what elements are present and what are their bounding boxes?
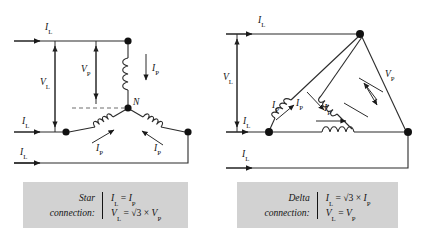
delta-vp-arrow-down: [364, 83, 377, 105]
delta-label-line-current-mid: IL: [243, 117, 250, 127]
delta-legend-eq1: IL = √3 × IP: [326, 190, 371, 205]
delta-connection-panel: IL VL IL IL IP IP IP VP Delta connec: [212, 0, 424, 247]
star-label-line-voltage: VL: [40, 78, 50, 88]
star-coil-top: [123, 58, 128, 90]
delta-label-line-voltage: VL: [223, 73, 233, 83]
star-label-line-current-mid: IL: [22, 117, 29, 127]
figure-root: IL VL VP IP N IL IL IP IP Star: [0, 0, 424, 247]
star-right-branch-b: [161, 127, 185, 132]
star-left-branch-b: [69, 127, 95, 132]
delta-label-phase-voltage: VP: [385, 70, 395, 80]
star-node-right: [184, 128, 191, 135]
star-node-left: [62, 128, 69, 135]
star-label-line-current-top: IL: [45, 23, 52, 33]
star-legend-name-line1: Star: [50, 190, 95, 205]
star-legend-eq2: VL = √3 × VP: [111, 205, 161, 220]
delta-bottom-return: [226, 136, 408, 168]
delta-legend-box: Delta connection: IL = √3 × IP VL = VP: [237, 182, 398, 228]
delta-label-line-current-top: IL: [258, 16, 265, 26]
delta-node-bottom-right: [404, 128, 412, 136]
star-label-phase-voltage: VP: [81, 65, 91, 75]
delta-legend-equations: IL = √3 × IP VL = VP: [318, 190, 371, 220]
star-node-top: [124, 37, 131, 44]
delta-legend-name-line2: connection:: [264, 205, 309, 220]
star-label-line-current-bottom: IL: [20, 148, 27, 158]
star-ip-right-arrow: [142, 131, 163, 145]
delta-legend-name: Delta connection:: [264, 190, 316, 220]
star-label-phase-current-right: IP: [154, 144, 161, 154]
star-coil-right: [143, 114, 163, 127]
delta-legend-eq2: VL = VP: [326, 205, 371, 220]
star-legend-name: Star connection:: [50, 190, 102, 220]
delta-label-phase-current-left2: IP: [272, 101, 279, 111]
delta-left-leg-b: [270, 118, 275, 129]
star-right-branch-a: [131, 110, 143, 117]
delta-vp-tick-bottom: [344, 103, 368, 117]
delta-node-apex: [356, 30, 364, 38]
star-label-phase-current-top: IP: [152, 64, 159, 74]
delta-coil-bottom: [322, 127, 354, 132]
delta-label-line-current-bottom: IL: [242, 150, 249, 160]
delta-label-phase-current-bottom: IP: [324, 104, 331, 114]
star-coil-left: [93, 114, 113, 127]
delta-label-phase-current-left: IP: [296, 99, 303, 109]
delta-legend-name-line1: Delta: [264, 190, 309, 205]
delta-node-bottom-left: [265, 128, 273, 136]
star-legend-equations: IL = IP VL = √3 × VP: [103, 190, 161, 220]
star-node-neutral: [124, 104, 131, 111]
star-label-neutral: N: [133, 98, 139, 108]
delta-vp-tick-top: [359, 78, 383, 92]
star-label-phase-current-left: IP: [96, 144, 103, 154]
star-left-branch-a: [113, 110, 125, 117]
star-legend-name-line2: connection:: [50, 205, 95, 220]
star-legend-eq1: IL = IP: [111, 190, 161, 205]
star-ip-left-arrow: [92, 130, 114, 143]
star-legend-box: Star connection: IL = IP VL = √3 × VP: [23, 182, 188, 228]
star-connection-panel: IL VL VP IP N IL IL IP IP Star: [0, 0, 212, 247]
